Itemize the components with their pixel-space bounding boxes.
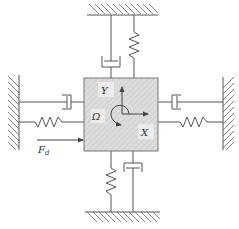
- x-axis-label: X: [140, 127, 149, 138]
- force-label-subscript: d: [45, 149, 50, 157]
- right-spring: [158, 117, 223, 127]
- right-wall: [223, 77, 234, 150]
- left-spring: [19, 117, 84, 127]
- rotation-label: Ω: [91, 111, 100, 122]
- bottom-wall: [85, 212, 160, 222]
- right-damper: [158, 95, 223, 109]
- left-damper: [19, 95, 84, 109]
- top-damper: [102, 15, 120, 78]
- force-label: Fd: [37, 144, 50, 157]
- left-wall: [8, 75, 19, 150]
- bottom-spring: [106, 151, 116, 212]
- spring-damper-diagram: Y X Ω Fd: [0, 0, 239, 229]
- top-wall: [87, 4, 158, 15]
- top-spring: [129, 15, 139, 78]
- bottom-damper: [124, 151, 142, 212]
